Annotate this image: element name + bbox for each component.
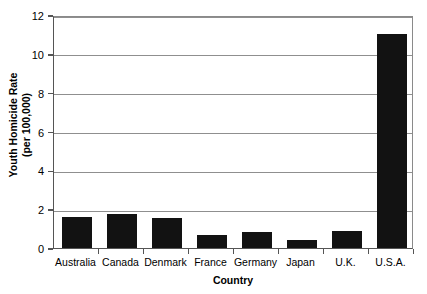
x-tick-label: Australia (55, 255, 96, 269)
x-tick-mark (143, 249, 144, 254)
y-tick-label: 6 (20, 127, 44, 138)
x-tick-mark (368, 249, 369, 254)
x-tick-label: Denmark (144, 255, 187, 269)
y-tick-label: 2 (20, 205, 44, 216)
x-tick-label: France (194, 255, 227, 269)
y-tick-label: 0 (20, 244, 44, 255)
x-axis-title: Country (53, 273, 413, 287)
bar-france (197, 235, 227, 248)
x-tick-label: U.S.A. (375, 255, 405, 269)
x-tick-mark (188, 249, 189, 254)
bar-japan (287, 240, 317, 248)
plot-area (53, 16, 413, 249)
bar-canada (107, 214, 137, 248)
x-tick-label: Canada (102, 255, 139, 269)
bars-layer (54, 17, 412, 248)
y-tick-label: 12 (20, 11, 44, 22)
x-tick-mark (98, 249, 99, 254)
y-tick-label: 8 (20, 88, 44, 99)
x-tick-label: Japan (286, 255, 315, 269)
x-tick-mark (323, 249, 324, 254)
x-tick-label: Germany (234, 255, 277, 269)
bar-australia (62, 217, 92, 248)
x-tick-mark (413, 249, 414, 254)
bar-germany (242, 232, 272, 248)
x-axis-labels: AustraliaCanadaDenmarkFranceGermanyJapan… (53, 255, 413, 271)
x-tick-mark (233, 249, 234, 254)
bar-denmark (152, 218, 182, 248)
bar-u-s-a (377, 34, 407, 248)
bar-u-k (332, 231, 362, 248)
y-axis-ticks: 024681012 (0, 0, 53, 294)
bar-chart-figure: Youth Homicide Rate (per 100,000) 024681… (0, 0, 427, 294)
x-tick-mark (278, 249, 279, 254)
y-tick-label: 4 (20, 166, 44, 177)
x-tick-label: U.K. (335, 255, 355, 269)
y-tick-label: 10 (20, 49, 44, 60)
